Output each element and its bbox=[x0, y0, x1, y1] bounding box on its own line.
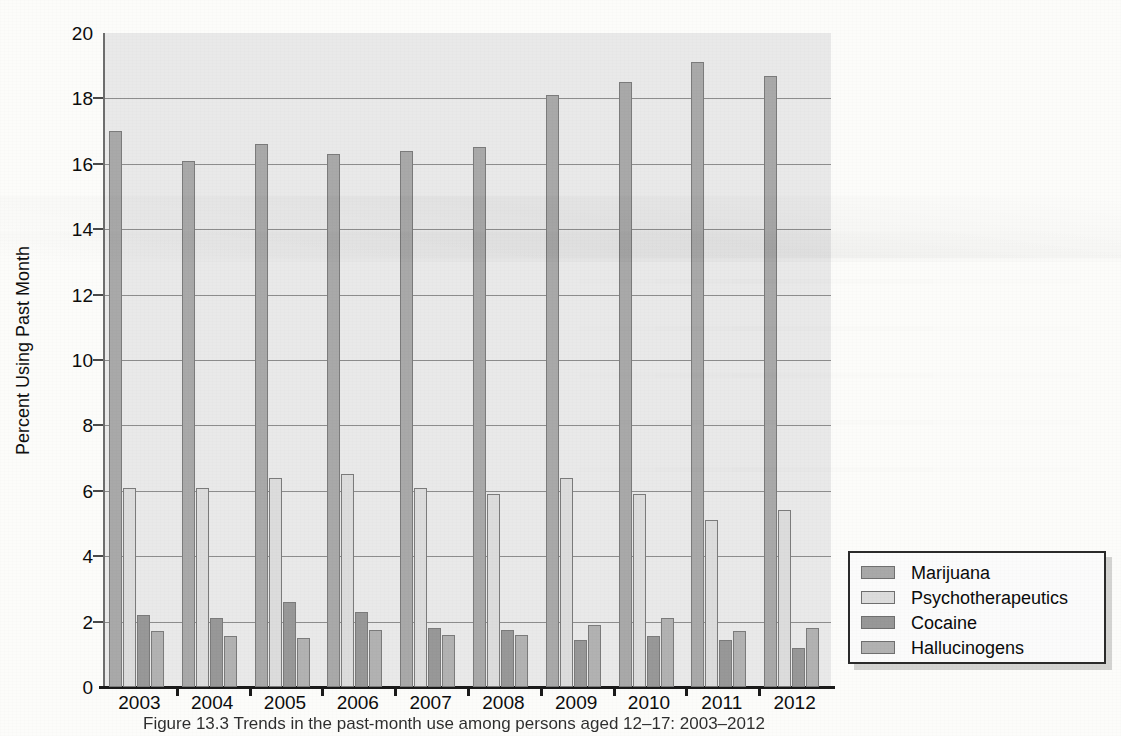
y-axis-tick-mark bbox=[93, 97, 103, 99]
legend-item: Hallucinogens bbox=[850, 635, 1104, 660]
bar bbox=[428, 628, 441, 687]
bar bbox=[574, 640, 587, 687]
chart-legend: MarijuanaPsychotherapeuticsCocaineHalluc… bbox=[848, 551, 1106, 664]
gridline bbox=[103, 491, 831, 492]
bar bbox=[196, 488, 209, 687]
bar bbox=[705, 520, 718, 687]
x-axis-tick-label: 2007 bbox=[394, 692, 468, 714]
gridline bbox=[103, 425, 831, 426]
y-axis-tick-label: 16 bbox=[47, 154, 93, 173]
legend-label: Psychotherapeutics bbox=[911, 589, 1068, 607]
y-axis-title: Percent Using Past Month bbox=[13, 116, 34, 586]
bar bbox=[109, 131, 122, 687]
bar bbox=[764, 76, 777, 687]
bar bbox=[588, 625, 601, 687]
bar bbox=[806, 628, 819, 687]
bar bbox=[255, 144, 268, 687]
x-axis-tick-label: 2003 bbox=[102, 692, 176, 714]
bar bbox=[224, 636, 237, 687]
bar bbox=[501, 630, 514, 687]
y-axis-tick-mark bbox=[93, 359, 103, 361]
bar bbox=[442, 635, 455, 687]
y-axis-tick-mark bbox=[93, 228, 103, 230]
bar bbox=[778, 510, 791, 687]
legend-item: Cocaine bbox=[850, 610, 1104, 635]
gridline bbox=[103, 556, 831, 557]
y-axis-tick-mark bbox=[93, 555, 103, 557]
y-axis-tick-label: 10 bbox=[47, 351, 93, 370]
gridline bbox=[103, 98, 831, 99]
bar bbox=[369, 630, 382, 687]
gridline bbox=[103, 229, 831, 230]
legend-swatch bbox=[861, 591, 895, 604]
bar bbox=[487, 494, 500, 687]
bar bbox=[123, 488, 136, 687]
plot-area bbox=[103, 33, 831, 687]
x-axis-tick-label: 2009 bbox=[539, 692, 613, 714]
legend-swatch bbox=[861, 566, 895, 579]
y-axis-tick-label: 18 bbox=[47, 89, 93, 108]
y-axis-tick-label: 6 bbox=[47, 481, 93, 500]
bar bbox=[719, 640, 732, 687]
bar bbox=[733, 631, 746, 687]
bar bbox=[297, 638, 310, 687]
bar bbox=[473, 147, 486, 687]
bar bbox=[792, 648, 805, 687]
bar bbox=[647, 636, 660, 687]
bar bbox=[515, 635, 528, 687]
y-axis-tick-mark bbox=[93, 621, 103, 623]
y-axis-line bbox=[103, 33, 105, 687]
bar bbox=[546, 95, 559, 687]
y-axis-tick-mark bbox=[93, 294, 103, 296]
x-axis-tick-label: 2004 bbox=[175, 692, 249, 714]
bar-chart-figure: 02468101214161820 Percent Using Past Mon… bbox=[0, 0, 1121, 736]
bar bbox=[691, 62, 704, 687]
legend-swatch bbox=[861, 641, 895, 654]
y-axis-tick-mark bbox=[93, 163, 103, 165]
bar bbox=[560, 478, 573, 687]
y-axis-tick-label: 12 bbox=[47, 285, 93, 304]
bar bbox=[283, 602, 296, 687]
legend-label: Marijuana bbox=[911, 564, 990, 582]
x-axis-tick-label: 2005 bbox=[248, 692, 322, 714]
y-axis-tick-label: 0 bbox=[47, 678, 93, 697]
y-axis-tick-label: 4 bbox=[47, 547, 93, 566]
bar bbox=[661, 618, 674, 687]
y-axis-tick-label: 2 bbox=[47, 612, 93, 631]
legend-label: Cocaine bbox=[911, 614, 977, 632]
x-axis-tick-label: 2012 bbox=[758, 692, 832, 714]
bar bbox=[619, 82, 632, 687]
x-axis-tick-label: 2010 bbox=[612, 692, 686, 714]
gridline bbox=[103, 295, 831, 296]
y-axis-tick-label: 8 bbox=[47, 416, 93, 435]
bar bbox=[633, 494, 646, 687]
bar bbox=[355, 612, 368, 687]
legend-swatch bbox=[861, 616, 895, 629]
gridline bbox=[103, 360, 831, 361]
bar bbox=[400, 151, 413, 687]
bar bbox=[341, 474, 354, 687]
figure-caption: Figure 13.3 Trends in the past-month use… bbox=[143, 714, 903, 734]
bar bbox=[137, 615, 150, 687]
bar bbox=[327, 154, 340, 687]
y-axis-tick-mark bbox=[93, 490, 103, 492]
legend-item: Marijuana bbox=[850, 560, 1104, 585]
legend-item: Psychotherapeutics bbox=[850, 585, 1104, 610]
bar bbox=[414, 488, 427, 687]
bar bbox=[182, 161, 195, 687]
x-axis-tick-label: 2008 bbox=[466, 692, 540, 714]
x-axis-tick-label: 2011 bbox=[685, 692, 759, 714]
x-axis-tick-label: 2006 bbox=[321, 692, 395, 714]
bar bbox=[210, 618, 223, 687]
bar bbox=[269, 478, 282, 687]
bar bbox=[151, 631, 164, 687]
legend-label: Hallucinogens bbox=[911, 639, 1024, 657]
y-axis-tick-label: 20 bbox=[47, 24, 93, 43]
gridline bbox=[103, 164, 831, 165]
y-axis-tick-label: 14 bbox=[47, 220, 93, 239]
y-axis-tick-mark bbox=[93, 424, 103, 426]
